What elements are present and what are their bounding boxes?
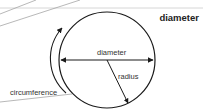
- diagonal-guide-line: [0, 0, 36, 14]
- circumference-label: circumference: [10, 88, 57, 97]
- diagonal-guide-line: [0, 0, 80, 26]
- diagram-title: diameter: [159, 12, 199, 23]
- radius-label: radius: [118, 72, 138, 81]
- radius-arrow: [107, 60, 128, 103]
- diameter-label: diameter: [97, 48, 126, 57]
